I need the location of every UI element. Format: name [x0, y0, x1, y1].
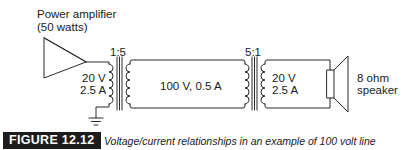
primary-current: 2.5 A	[80, 84, 106, 97]
transformer-1-secondary-coil	[126, 64, 130, 104]
figure-caption: FIGURE 12.12 Voltage/current relationshi…	[0, 132, 410, 149]
amplifier-label-line1: Power amplifier	[37, 8, 116, 21]
figure-caption-text: Voltage/current relationships in an exam…	[104, 133, 410, 150]
figure-number-badge: FIGURE 12.12	[3, 132, 101, 149]
line-wire-bottom	[130, 104, 245, 108]
transformer-1-primary-coil	[109, 64, 113, 104]
transformer-1-core	[117, 57, 122, 110]
speaker-label-line2: speaker	[357, 84, 398, 97]
transformer-2-ratio: 5:1	[245, 46, 261, 59]
amplifier-icon	[44, 38, 86, 78]
line-wire-top	[130, 60, 245, 64]
amplifier-label-line2: (50 watts)	[37, 21, 88, 34]
line-label: 100 V, 0.5 A	[160, 80, 222, 93]
transformer-2-primary-coil	[245, 64, 249, 104]
transformer-1-ratio: 1:5	[110, 46, 126, 59]
transformer-2-core	[252, 57, 257, 110]
transformer-2-secondary-coil	[261, 64, 265, 104]
secondary-current: 2.5 A	[272, 84, 298, 97]
ground-icon	[89, 118, 103, 125]
